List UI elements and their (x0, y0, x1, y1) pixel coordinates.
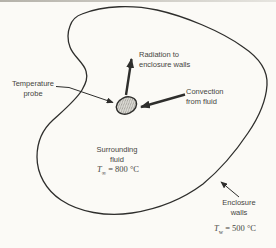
fluid-temperature-value: T∞ = 800 °C (84, 164, 152, 174)
temperature-probe-label: Temperature probe (6, 79, 60, 99)
wall-pointer-arrow (221, 182, 239, 197)
surrounding-fluid-label: Surrounding fluid (85, 145, 149, 165)
enclosure-outline (37, 7, 267, 215)
radiation-label: Radiation to enclosure walls (139, 50, 190, 70)
convection-arrow (141, 95, 185, 108)
probe-pointer-arrow (56, 87, 113, 103)
convection-label: Convection from fluid (186, 87, 224, 107)
wall-temp-text: = 500 °C (225, 223, 256, 233)
wall-temp-subscript: w (219, 229, 223, 235)
enclosure-walls-label: Enclosure walls (216, 198, 262, 218)
radiation-arrow (126, 59, 132, 95)
temperature-probe-ellipse (114, 94, 140, 118)
fluid-temp-text: = 800 °C (108, 164, 139, 174)
wall-temperature-value: Tw = 500 °C (204, 223, 266, 233)
heat-transfer-diagram: Radiation to enclosure walls Temperature… (0, 0, 276, 248)
fluid-temp-subscript: ∞ (102, 170, 106, 176)
